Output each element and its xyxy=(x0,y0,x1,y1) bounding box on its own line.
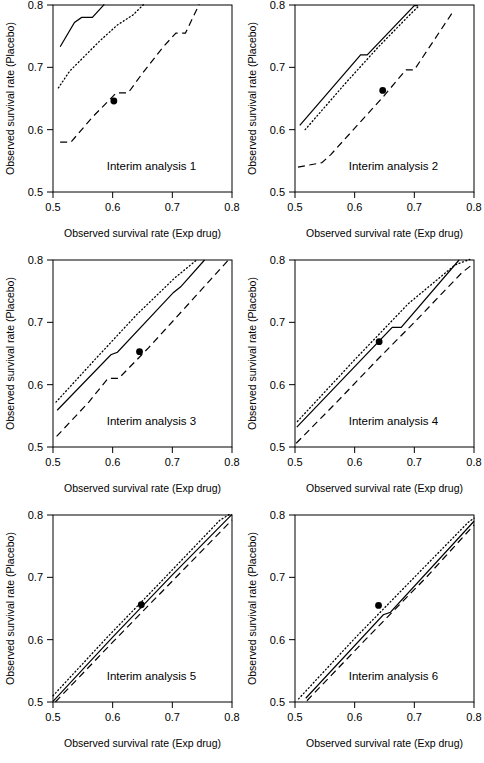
x-tick-label: 0.5 xyxy=(287,456,302,468)
plot-panel-2: 0.50.60.70.80.50.60.70.8Interim analysis… xyxy=(242,0,484,255)
y-tick-label: 0.6 xyxy=(28,634,43,646)
y-tick-label: 0.5 xyxy=(28,441,43,453)
panel-canvas: 0.50.60.70.80.50.60.70.8Interim analysis… xyxy=(0,510,242,763)
panel-label: Interim analysis 6 xyxy=(349,670,438,682)
x-tick-label: 0.5 xyxy=(45,711,60,723)
x-tick-label: 0.5 xyxy=(45,201,60,213)
observed-point-marker xyxy=(376,338,383,345)
y-tick-label: 0.8 xyxy=(28,510,43,521)
plot-panel-4: 0.50.60.70.80.50.60.70.8Interim analysis… xyxy=(242,255,484,510)
y-tick-label: 0.6 xyxy=(28,124,43,136)
y-axis-title: Observed survival rate (Placebo) xyxy=(246,22,258,175)
y-tick-label: 0.5 xyxy=(270,186,285,198)
y-tick-label: 0.8 xyxy=(28,255,43,266)
x-axis-title: Observed survival rate (Exp drug) xyxy=(64,227,221,239)
x-tick-label: 0.6 xyxy=(347,456,362,468)
x-tick-label: 0.7 xyxy=(165,711,180,723)
observed-point-marker xyxy=(136,348,143,355)
y-axis-title: Observed survival rate (Placebo) xyxy=(4,532,16,685)
series-dashed-boundary xyxy=(298,11,454,167)
observed-point-marker xyxy=(138,601,145,608)
x-tick-label: 0.6 xyxy=(105,711,120,723)
series-dotted-boundary xyxy=(297,259,469,421)
x-tick-label: 0.7 xyxy=(165,456,180,468)
x-tick-label: 0.8 xyxy=(466,456,481,468)
y-tick-label: 0.8 xyxy=(270,255,285,266)
y-tick-label: 0.7 xyxy=(270,571,285,583)
x-axis-title: Observed survival rate (Exp drug) xyxy=(306,227,463,239)
series-dashed-boundary xyxy=(60,4,199,142)
x-tick-label: 0.7 xyxy=(407,711,422,723)
y-tick-label: 0.7 xyxy=(28,316,43,328)
y-tick-label: 0.7 xyxy=(28,61,43,73)
y-tick-label: 0.8 xyxy=(28,0,43,11)
y-tick-label: 0.5 xyxy=(28,186,43,198)
x-axis-title: Observed survival rate (Exp drug) xyxy=(306,737,463,749)
x-tick-label: 0.8 xyxy=(466,201,481,213)
observed-point-marker xyxy=(379,87,386,94)
series-dotted-boundary xyxy=(305,7,418,130)
x-axis-title: Observed survival rate (Exp drug) xyxy=(64,737,221,749)
plot-panel-6: 0.50.60.70.80.50.60.70.8Interim analysis… xyxy=(242,510,484,763)
x-tick-label: 0.8 xyxy=(224,201,239,213)
y-tick-label: 0.7 xyxy=(270,61,285,73)
x-tick-label: 0.8 xyxy=(224,456,239,468)
y-tick-label: 0.6 xyxy=(270,634,285,646)
y-tick-label: 0.7 xyxy=(28,571,43,583)
plot-panel-3: 0.50.60.70.80.50.60.70.8Interim analysis… xyxy=(0,255,242,510)
y-tick-label: 0.8 xyxy=(270,510,285,521)
plot-panel-5: 0.50.60.70.80.50.60.70.8Interim analysis… xyxy=(0,510,242,763)
y-tick-label: 0.7 xyxy=(270,316,285,328)
x-tick-label: 0.5 xyxy=(287,711,302,723)
y-tick-label: 0.5 xyxy=(270,696,285,708)
panel-label: Interim analysis 2 xyxy=(349,160,438,172)
panel-canvas: 0.50.60.70.80.50.60.70.8Interim analysis… xyxy=(242,255,484,510)
y-tick-label: 0.6 xyxy=(270,379,285,391)
panel-canvas: 0.50.60.70.80.50.60.70.8Interim analysis… xyxy=(242,0,484,255)
series-solid-boundary xyxy=(60,4,104,46)
panel-label: Interim analysis 1 xyxy=(107,160,196,172)
y-tick-label: 0.6 xyxy=(270,124,285,136)
x-tick-label: 0.6 xyxy=(347,711,362,723)
x-tick-label: 0.5 xyxy=(45,456,60,468)
series-dashed-boundary xyxy=(57,260,229,436)
series-dotted-boundary xyxy=(58,4,143,88)
x-axis-title: Observed survival rate (Exp drug) xyxy=(64,482,221,494)
panel-canvas: 0.50.60.70.80.50.60.70.8Interim analysis… xyxy=(242,510,484,763)
series-solid-boundary xyxy=(300,6,418,126)
plot-panel-1: 0.50.60.70.80.50.60.70.8Interim analysis… xyxy=(0,0,242,255)
y-tick-label: 0.5 xyxy=(270,441,285,453)
observed-point-marker xyxy=(110,98,117,105)
panel-label: Interim analysis 4 xyxy=(349,415,439,427)
y-axis-title: Observed survival rate (Placebo) xyxy=(4,22,16,175)
series-dotted-boundary xyxy=(56,259,197,402)
y-axis-title: Observed survival rate (Placebo) xyxy=(246,277,258,430)
observed-point-marker xyxy=(375,602,382,609)
x-tick-label: 0.7 xyxy=(407,456,422,468)
y-tick-label: 0.6 xyxy=(28,379,43,391)
y-axis-title: Observed survival rate (Placebo) xyxy=(246,532,258,685)
x-axis-title: Observed survival rate (Exp drug) xyxy=(306,482,463,494)
panel-label: Interim analysis 3 xyxy=(107,415,196,427)
x-tick-label: 0.6 xyxy=(105,456,120,468)
y-axis-title: Observed survival rate (Placebo) xyxy=(4,277,16,430)
panel-canvas: 0.50.60.70.80.50.60.70.8Interim analysis… xyxy=(0,0,242,255)
x-tick-label: 0.6 xyxy=(105,201,120,213)
x-tick-label: 0.7 xyxy=(407,201,422,213)
panel-grid: 0.50.60.70.80.50.60.70.8Interim analysis… xyxy=(0,0,484,763)
x-tick-label: 0.8 xyxy=(466,711,481,723)
x-tick-label: 0.5 xyxy=(287,201,302,213)
series-solid-boundary xyxy=(57,260,204,410)
y-tick-label: 0.8 xyxy=(270,0,285,11)
x-tick-label: 0.7 xyxy=(165,201,180,213)
y-tick-label: 0.5 xyxy=(28,696,43,708)
panel-label: Interim analysis 5 xyxy=(107,670,196,682)
panel-canvas: 0.50.60.70.80.50.60.70.8Interim analysis… xyxy=(0,255,242,510)
x-tick-label: 0.8 xyxy=(224,711,239,723)
x-tick-label: 0.6 xyxy=(347,201,362,213)
